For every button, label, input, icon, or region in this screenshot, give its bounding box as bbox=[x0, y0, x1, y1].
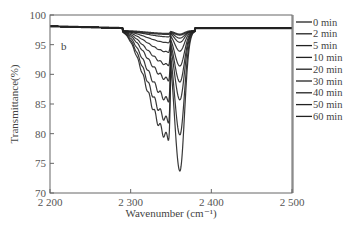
legend-item: 60 min bbox=[313, 111, 343, 122]
legend-item: 40 min bbox=[313, 87, 343, 98]
y-tick-label: 80 bbox=[35, 128, 47, 140]
spectra-curves bbox=[50, 26, 292, 171]
legend-item: 30 min bbox=[313, 76, 343, 87]
legend-item: 2 min bbox=[313, 28, 338, 39]
y-axis-label: Transmittance(%) bbox=[8, 64, 21, 143]
y-tick-label: 90 bbox=[35, 68, 47, 80]
x-axis-label: Wavenumber (cm⁻¹) bbox=[125, 207, 217, 220]
legend-item: 5 min bbox=[313, 40, 338, 51]
y-tick-label: 75 bbox=[35, 157, 47, 169]
y-tick-label: 85 bbox=[35, 98, 47, 110]
y-tick-label: 95 bbox=[35, 39, 47, 51]
legend-item: 0 min bbox=[313, 17, 338, 28]
legend-item: 50 min bbox=[313, 99, 343, 110]
ftir-chart: 707580859095100 2 2002 3002 4002 500 b W… bbox=[0, 0, 356, 240]
panel-label: b bbox=[61, 40, 67, 52]
legend: 0 min2 min5 min10 min20 min30 min40 min5… bbox=[293, 15, 355, 193]
x-axis: 2 2002 3002 4002 500 bbox=[38, 189, 305, 208]
y-tick-label: 100 bbox=[30, 9, 47, 21]
legend-item: 10 min bbox=[313, 52, 343, 63]
legend-item: 20 min bbox=[313, 64, 343, 75]
x-tick-label: 2 200 bbox=[38, 196, 63, 208]
x-tick-label: 2 500 bbox=[280, 196, 305, 208]
